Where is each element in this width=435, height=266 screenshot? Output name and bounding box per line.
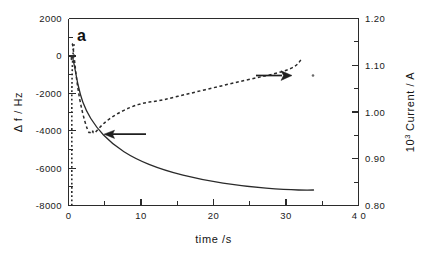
- y-left-tick-neg8000: -8000: [36, 200, 62, 211]
- chart-svg: 2000 0 -2000 -4000 -6000 -8000 1.20 1.10…: [0, 0, 435, 266]
- x-tick-20: 20: [208, 210, 219, 221]
- plot-frame: [69, 19, 359, 206]
- y-right-tick-110: 1.10: [365, 60, 385, 71]
- y-right-title-base: 10: [404, 139, 416, 152]
- y-right-ticklabels: 1.20 1.10 1.00 0.90 0.80: [365, 13, 385, 211]
- y-right-ticks: [352, 19, 359, 206]
- x-tick-0: 0: [66, 210, 72, 221]
- series-frequency-solid: [71, 57, 313, 190]
- y-left-tick-neg2000: -2000: [36, 88, 62, 99]
- y-right-tick-090: 0.90: [365, 153, 385, 164]
- svg-text:103 Current / A: 103 Current / A: [403, 72, 416, 153]
- left-arrow-annotation: [104, 130, 146, 138]
- series-initial-transient: [72, 44, 74, 206]
- x-ticklabels: 0 10 20 30 4 0: [66, 210, 367, 221]
- y-right-tick-100: 1.00: [365, 107, 385, 118]
- y-left-tick-0: 0: [56, 50, 62, 61]
- y-right-tick-080: 0.80: [365, 200, 385, 211]
- y-left-tick-2000: 2000: [39, 13, 62, 24]
- y-left-axis-title: Δ f / Hz: [12, 92, 24, 132]
- y-left-tick-neg6000: -6000: [36, 163, 62, 174]
- y-right-title-rest: Current / A: [404, 72, 416, 135]
- x-ticks: [69, 199, 359, 206]
- y-right-axis-title: 103 Current / A: [403, 72, 416, 153]
- scan-speck: [312, 74, 315, 77]
- series-current-dashed: [72, 44, 301, 133]
- figure-container: 2000 0 -2000 -4000 -6000 -8000 1.20 1.10…: [0, 0, 435, 266]
- y-right-tick-120: 1.20: [365, 13, 385, 24]
- right-arrow-annotation: [256, 71, 292, 81]
- y-left-ticklabels: 2000 0 -2000 -4000 -6000 -8000: [36, 13, 62, 211]
- y-left-tick-neg4000: -4000: [36, 125, 62, 136]
- x-tick-40: 4 0: [352, 210, 366, 221]
- panel-label-a: a: [77, 27, 86, 44]
- x-axis-title: time /s: [195, 233, 232, 245]
- x-tick-30: 30: [280, 210, 291, 221]
- x-tick-10: 10: [135, 210, 146, 221]
